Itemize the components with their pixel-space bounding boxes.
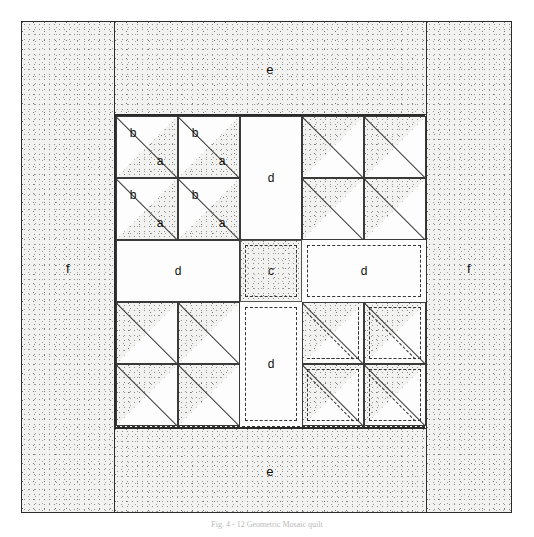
hst-cell-bl-0 [116,302,178,364]
hst-cell-tl-0 [116,116,178,178]
patch-label-b-2: b [192,126,199,140]
patch-label-d-middle-left: d [175,264,182,278]
patch-label-a-4: a [219,216,226,230]
patch-label-d-top: d [268,171,275,185]
patch-label-a-2: a [219,154,226,168]
hst-cell-bl-3 [178,364,240,426]
patch-label-d-middle-right: d [361,264,368,278]
border-label-bottom-e: e [266,464,273,479]
hst-cell-tr-0 [302,116,364,178]
patch-label-b-3: b [130,188,137,202]
patch-label-d-bottom: d [268,357,275,371]
hst-cell-br-2 [302,364,364,426]
hst-cell-br-1 [364,302,426,364]
patch-label-b-1: b [130,126,137,140]
border-label-right-f: f [467,261,471,276]
pieced-block: b a b a b a b a d [115,115,425,428]
patch-label-b-4: b [192,188,199,202]
hst-cell-tr-1 [364,116,426,178]
patch-label-a-1: a [157,154,164,168]
quilt-block-figure: f f e e b a b a [21,21,512,513]
hst-cell-br-3 [364,364,426,426]
hst-cell-bl-2 [116,364,178,426]
seam-line-right [426,148,427,428]
patch-label-c-center: c [268,264,274,278]
hst-cell-tl-2 [116,178,178,240]
hst-cell-br-0 [302,302,364,364]
hst-cell-tr-2 [302,178,364,240]
hst-cell-tr-3 [364,178,426,240]
hst-cell-tl-1 [178,116,240,178]
figure-caption: Fig. 4 - 12 Geometric Mosaic quilt [0,520,534,529]
hst-cell-tl-3 [178,178,240,240]
hst-cell-bl-1 [178,302,240,364]
border-label-top-e: e [266,62,273,77]
patch-label-a-3: a [157,216,164,230]
border-label-left-f: f [66,261,70,276]
